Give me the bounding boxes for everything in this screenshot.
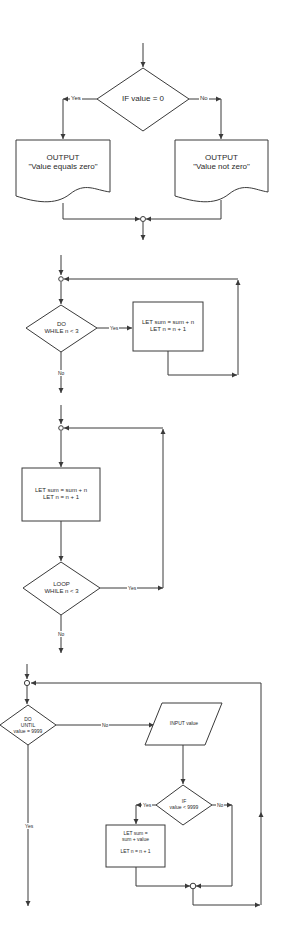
do-until-no-label: No <box>101 722 109 728</box>
if-value-label: IF value < 9999 <box>156 799 212 811</box>
flowchart-canvas: IF value = 0 Yes No OUTPUT "Value equals… <box>0 0 288 951</box>
output-equals-zero-text: OUTPUT "Value equals zero" <box>16 153 110 171</box>
loop-while-process-text: LET sum = sum + n LET n = n + 1 <box>22 487 100 501</box>
do-until-process-text: LET sum = sum + value LET n = n + 1 <box>106 831 165 854</box>
do-while-label: DO WHILE n < 3 <box>26 321 97 335</box>
do-until-diagram <box>0 664 261 906</box>
input-value-text: INPUT value <box>150 721 218 727</box>
if-value-zero-label: IF value = 0 <box>97 94 189 103</box>
output-not-zero-text: OUTPUT "Value not zero" <box>175 153 268 171</box>
if-value-no-label: No <box>216 802 224 808</box>
do-while-yes-label: Yes <box>109 325 119 331</box>
loop-while-label: LOOP WHILE n < 3 <box>23 581 100 595</box>
if-value-yes-label: Yes <box>142 802 152 808</box>
do-while-no-label: No <box>57 370 65 376</box>
yes-edge-label: Yes <box>70 95 82 101</box>
do-until-label: DO UNTIL value = 9999 <box>0 717 56 734</box>
loop-while-no-label: No <box>57 631 65 637</box>
loop-while-diagram <box>22 405 163 653</box>
do-while-process-text: LET sum = sum + n LET n = n + 1 <box>133 319 203 333</box>
merge-connector <box>141 217 146 222</box>
do-until-yes-label: Yes <box>24 823 34 829</box>
flowchart-lines <box>0 0 288 951</box>
no-edge-label: No <box>199 95 209 101</box>
loop-while-yes-label: Yes <box>127 585 137 591</box>
if-then-else-diagram <box>16 43 268 240</box>
